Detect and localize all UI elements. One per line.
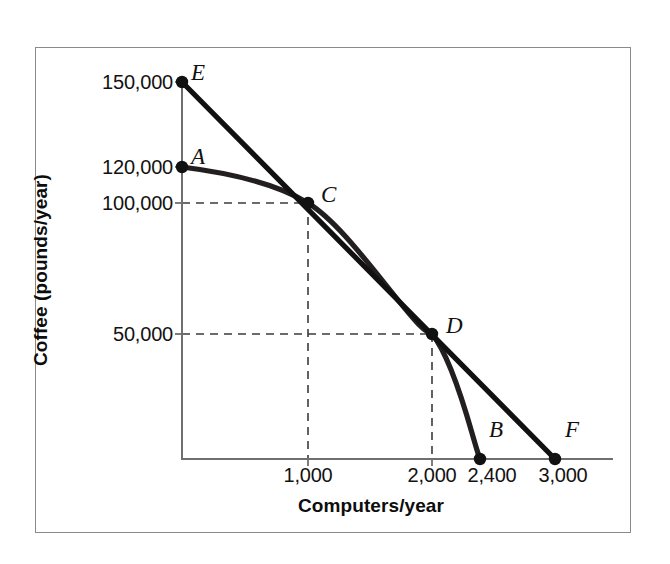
x-tick-label-1000: 1,000 — [283, 464, 332, 487]
point-label-f: F — [565, 417, 579, 443]
x-tick-label-3000: 3,000 — [538, 464, 587, 487]
point-label-c: C — [321, 182, 336, 208]
figure-root: 150,000 120,000 100,000 50,000 1,000 2,0… — [0, 0, 670, 564]
point-label-a: A — [191, 144, 205, 170]
x-tick-label-2400: 2,400 — [467, 464, 516, 487]
point-label-b: B — [489, 417, 503, 443]
y-axis-title-text: Coffee (pounds/year) — [30, 120, 52, 420]
y-tick-label-50000: 50,000 — [113, 323, 173, 346]
y-tick-label-150000: 150,000 — [102, 71, 173, 94]
y-tick-label-100000: 100,000 — [102, 192, 173, 215]
point-label-d: D — [446, 313, 463, 339]
x-axis-title: Computers/year — [182, 495, 560, 517]
point-label-e: E — [191, 60, 205, 86]
y-axis-title: Coffee (pounds/year) — [30, 120, 52, 420]
figure-border — [35, 47, 631, 533]
y-tick-label-120000: 120,000 — [102, 156, 173, 179]
x-tick-label-2000: 2,000 — [407, 464, 456, 487]
